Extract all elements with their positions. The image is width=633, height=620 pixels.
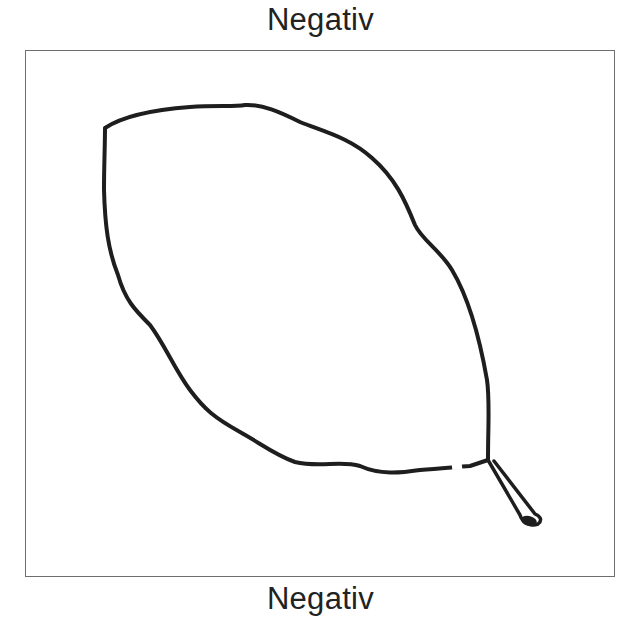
leaf-stem bbox=[488, 460, 541, 525]
base-gap-mark bbox=[452, 466, 462, 467]
leaf-blade-outline bbox=[104, 105, 489, 473]
bottom-label: Negativ bbox=[0, 581, 633, 617]
leaf-outline-icon bbox=[0, 0, 633, 620]
